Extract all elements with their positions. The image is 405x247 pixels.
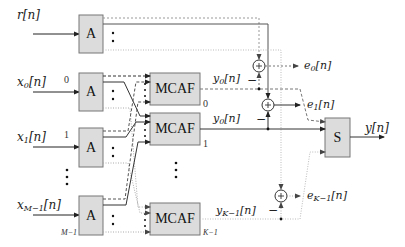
error-wires — [265, 66, 300, 196]
channel-index-M-1: M−1 — [61, 229, 77, 237]
channel-index-0: 0 — [64, 75, 69, 85]
analysis-block-r: A — [79, 15, 103, 53]
mcaf-output-label-K-1: yK−1[n] — [216, 205, 256, 218]
input-label-x1: x1[n] — [17, 131, 46, 145]
channel-index-1: 1 — [64, 130, 69, 140]
analysis-block-M-1: A — [79, 196, 103, 235]
input-arrows — [33, 34, 79, 215]
input-label-x0: x0[n] — [17, 76, 46, 90]
adaptive-filter-block-diagram: r[n] x0[n] x1[n] xM−1[n] 0 1 M−1 A A A A… — [0, 0, 405, 247]
x1-wires — [103, 82, 150, 213]
mcaf-index-1: 1 — [203, 139, 208, 149]
mcaf-index-0: 0 — [203, 99, 208, 109]
mcaf-block-1: MCAF — [150, 113, 200, 145]
minus-sign-K-1: − — [268, 204, 278, 216]
mcaf-block-0: MCAF — [150, 73, 200, 105]
mcaf-output-label-1: y0[n] — [213, 113, 240, 126]
error-label-K-1: eK−1[n] — [307, 190, 347, 203]
input-label-xM-1: xM−1[n] — [17, 199, 61, 213]
minus-sign-1: − — [256, 113, 266, 125]
summing-junctions — [253, 60, 287, 202]
output-label: y[n] — [365, 122, 389, 134]
minus-sign-0: − — [247, 74, 257, 86]
error-label-0: e0[n] — [304, 60, 331, 73]
synthesis-block-label: S — [325, 118, 350, 157]
error-label-1: e1[n] — [307, 99, 334, 112]
mcaf-output-label-0: y0[n] — [213, 73, 240, 86]
analysis-block-1: A — [79, 128, 103, 167]
mcaf-block-K-1: MCAF — [150, 203, 200, 235]
plus-icons — [256, 63, 284, 199]
analysis-block-0: A — [79, 73, 103, 111]
input-label-r: r[n] — [17, 9, 40, 21]
mcaf-index-K-1: K−1 — [203, 229, 218, 237]
